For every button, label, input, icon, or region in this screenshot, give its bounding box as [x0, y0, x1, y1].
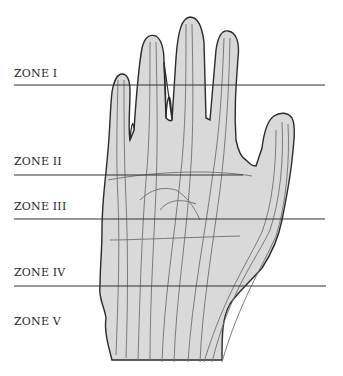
zone-diagram: ZONE I ZONE II ZONE III ZONE IV ZONE V	[0, 0, 343, 376]
zone-iv-label: ZONE IV	[14, 266, 66, 279]
zone-iii-label: ZONE III	[14, 200, 66, 213]
zone-i-label: ZONE I	[14, 67, 57, 80]
zone-v-label: ZONE V	[14, 315, 61, 328]
zone-ii-label: ZONE II	[14, 155, 62, 168]
hand-outline	[100, 17, 295, 360]
